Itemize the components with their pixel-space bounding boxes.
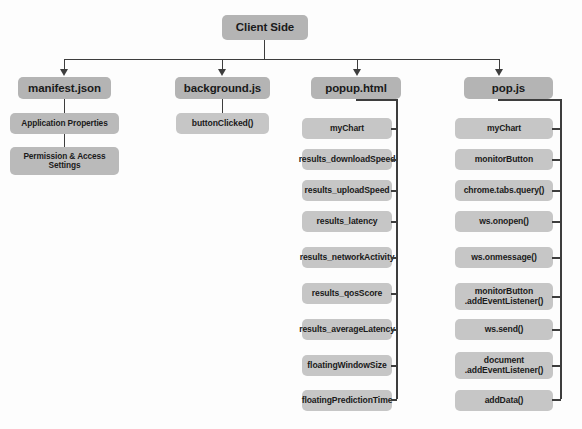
node-application-properties[interactable]: Application Properties (10, 113, 119, 134)
node-popup-floatingpredictiontime[interactable]: floatingPredictionTime (302, 390, 392, 411)
spine-popjs-stub-2 (552, 190, 561, 192)
spine-popup-stub-8 (391, 399, 397, 401)
column-header-popup-html[interactable]: popup.html (311, 77, 401, 99)
root-stem-line (264, 40, 265, 60)
node-popup-results-latency[interactable]: results_latency (302, 211, 392, 232)
node-popup-results-uploadspeed[interactable]: results_uploadSpeed (302, 180, 392, 201)
node-popjs-ws-onopen[interactable]: ws.onopen() (455, 211, 553, 232)
node-popjs-ws-send[interactable]: ws.send() (455, 319, 553, 340)
node-popjs-monitorbutton[interactable]: monitorButton (455, 149, 553, 170)
node-button-clicked[interactable]: buttonClicked() (176, 113, 269, 134)
spine-popup-stub-7 (391, 365, 397, 367)
spine-popup-stub-1 (391, 159, 397, 161)
spine-popup-stub-3 (391, 221, 397, 223)
node-popjs-document-addeventlistener[interactable]: document .addEventListener() (455, 352, 553, 379)
spine-popjs-stub-3 (552, 221, 561, 223)
arrow-popup (353, 69, 361, 76)
node-permission-access-settings[interactable]: Permission & Access Settings (10, 147, 119, 175)
spine-popjs-stub-1 (552, 159, 561, 161)
connector-background-1 (222, 99, 223, 113)
spine-popup-stub-5 (391, 293, 397, 295)
column-header-pop-js[interactable]: pop.js (464, 77, 553, 99)
arrow-background (218, 69, 226, 76)
spine-popjs-stub-5 (552, 296, 561, 298)
connector-manifest-2 (64, 134, 65, 147)
connector-manifest-1 (64, 99, 65, 113)
node-popjs-adddata[interactable]: addData() (455, 390, 553, 411)
diagram-canvas: Client Side manifest.json Application Pr… (0, 0, 582, 429)
spine-popjs-stub-0 (552, 128, 561, 130)
spine-popup-stub-4 (391, 257, 397, 259)
spine-popjs-stub-7 (552, 365, 561, 367)
column-header-background-js[interactable]: background.js (175, 77, 270, 99)
spine-popjs-stub-8 (552, 399, 561, 401)
spine-popjs-stub-4 (552, 257, 561, 259)
node-popup-results-downloadspeed[interactable]: results_downloadSpeed (302, 149, 392, 170)
spine-popup-top-stub (356, 99, 397, 101)
arrow-manifest (60, 69, 68, 76)
node-popjs-mychart[interactable]: myChart (455, 118, 553, 139)
root-node-client-side[interactable]: Client Side (222, 15, 308, 40)
spine-popup (396, 99, 398, 399)
spine-popjs-stub-6 (552, 329, 561, 331)
node-popup-mychart[interactable]: myChart (302, 118, 392, 139)
column-header-manifest-json[interactable]: manifest.json (18, 77, 111, 99)
node-popjs-ws-onmessage[interactable]: ws.onmessage() (455, 247, 553, 268)
node-popjs-monitorbutton-addeventlistener[interactable]: monitorButton .addEventListener() (455, 283, 553, 310)
node-popup-results-averagelatency[interactable]: results_averageLatency (302, 319, 392, 340)
node-popup-results-networkactivity[interactable]: results_networkActivity (302, 247, 392, 268)
spine-popjs-top-stub (498, 99, 561, 101)
spine-popup-stub-6 (391, 329, 397, 331)
arrow-popjs (495, 69, 503, 76)
spine-popjs (560, 99, 562, 399)
spine-popup-stub-2 (391, 190, 397, 192)
distribution-bus-line (64, 59, 500, 60)
node-popjs-chrome-tabs-query[interactable]: chrome.tabs.query() (455, 180, 553, 201)
spine-popup-stub-0 (391, 128, 397, 130)
node-popup-floatingwindowsize[interactable]: floatingWindowSize (302, 355, 392, 376)
node-popup-results-qosscore[interactable]: results_qosScore (302, 283, 392, 304)
